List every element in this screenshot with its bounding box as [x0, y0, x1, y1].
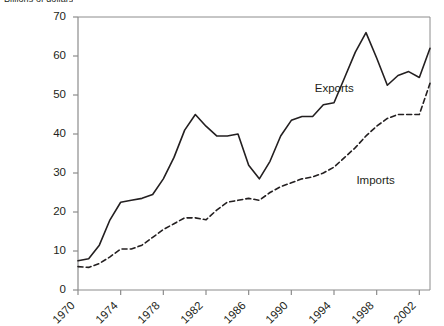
y-tick-label: 20	[36, 206, 66, 218]
series-label-imports: Imports	[356, 174, 394, 186]
y-tick-label: 70	[36, 11, 66, 23]
chart-series	[78, 33, 430, 268]
series-label-exports: Exports	[315, 82, 354, 94]
y-tick-label: 0	[36, 284, 66, 296]
y-tick-label: 10	[36, 245, 66, 257]
y-tick-label: 40	[36, 128, 66, 140]
chart-container: Billions of dollars 706050403020100 1970…	[0, 0, 444, 326]
y-tick-label: 30	[36, 167, 66, 179]
line-chart-plot	[0, 0, 444, 326]
y-tick-label: 50	[36, 89, 66, 101]
y-tick-label: 60	[36, 50, 66, 62]
series-line-exports	[78, 33, 430, 261]
